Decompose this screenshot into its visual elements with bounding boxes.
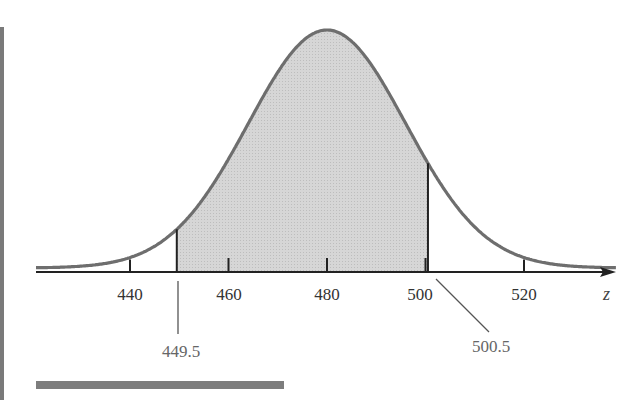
tick-label-460: 460 <box>216 285 242 305</box>
bottom-divider-bar <box>36 381 284 389</box>
normal-curve-chart <box>0 0 634 400</box>
upper-bound-label: 500.5 <box>472 337 510 357</box>
lower-bound-label: 449.5 <box>162 342 200 362</box>
tick-label-520: 520 <box>511 285 537 305</box>
tick-label-480: 480 <box>314 285 340 305</box>
tick-label-500: 500 <box>407 285 433 305</box>
upper-bound-leader <box>436 279 489 332</box>
tick-label-440: 440 <box>117 285 143 305</box>
shaded-area <box>177 30 428 272</box>
axis-variable-label: z <box>603 284 610 305</box>
